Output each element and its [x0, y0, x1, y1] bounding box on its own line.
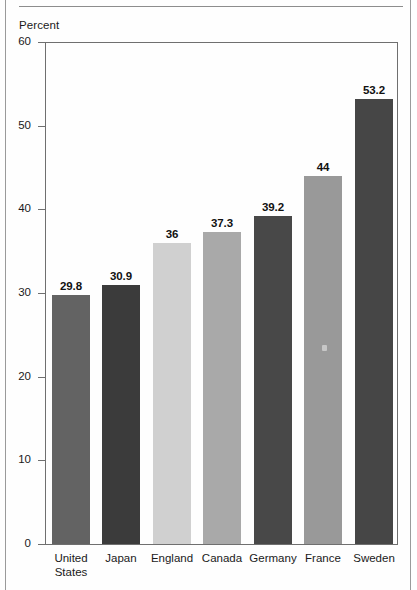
- y-axis-labels: 0102030405060: [0, 42, 31, 545]
- x-axis-category-label: United States: [44, 551, 98, 579]
- y-axis-tick-label: 40: [18, 203, 31, 215]
- bar-item[interactable]: 37.3: [203, 232, 241, 544]
- bar[interactable]: [52, 295, 90, 544]
- page-rule-top: [19, 6, 403, 7]
- bar-item[interactable]: 39.2: [254, 216, 292, 544]
- bar-value-label: 36: [166, 228, 179, 240]
- y-axis-tick-label: 20: [18, 371, 31, 383]
- y-axis-tick-label: 30: [18, 287, 31, 299]
- bar-value-label: 39.2: [262, 201, 284, 213]
- scan-artifact: [322, 345, 327, 351]
- bar[interactable]: [254, 216, 292, 544]
- bar[interactable]: [203, 232, 241, 544]
- bar-series: 29.830.93637.339.24453.2: [45, 42, 398, 545]
- y-axis-tick: [38, 377, 45, 378]
- bar-value-label: 30.9: [110, 270, 132, 282]
- y-axis-tick: [38, 42, 45, 43]
- y-axis-tick-label: 60: [18, 36, 31, 48]
- plot-area: 29.830.93637.339.24453.2: [45, 42, 398, 545]
- page-border-right: [410, 0, 411, 590]
- y-axis-tick: [38, 460, 45, 461]
- bar-value-label: 37.3: [211, 217, 233, 229]
- x-axis-category-label: England: [145, 551, 199, 565]
- bar-value-label: 53.2: [363, 84, 385, 96]
- x-axis-labels: United StatesJapanEnglandCanadaGermanyFr…: [45, 551, 398, 589]
- bar-value-label: 44: [317, 161, 330, 173]
- bar[interactable]: [153, 243, 191, 544]
- y-axis-tick: [38, 209, 45, 210]
- y-axis-tick-label: 10: [18, 454, 31, 466]
- y-axis-tick: [38, 293, 45, 294]
- y-axis-tick-label: 0: [25, 538, 31, 550]
- y-axis-tick: [38, 544, 45, 545]
- y-axis-tick: [38, 126, 45, 127]
- x-axis-category-label: Canada: [195, 551, 249, 565]
- y-axis-title: Percent: [19, 19, 59, 31]
- bar-item[interactable]: 53.2: [355, 99, 393, 544]
- y-axis-tick-label: 50: [18, 120, 31, 132]
- chart-page: Percent 0102030405060 29.830.93637.339.2…: [0, 0, 417, 590]
- bar[interactable]: [102, 285, 140, 544]
- x-axis-category-label: Sweden: [347, 551, 401, 565]
- bar-item[interactable]: 44: [304, 176, 342, 544]
- x-axis-category-label: France: [296, 551, 350, 565]
- x-axis-category-label: Germany: [246, 551, 300, 565]
- bar-item[interactable]: 30.9: [102, 285, 140, 544]
- bar[interactable]: [355, 99, 393, 544]
- bar-item[interactable]: 29.8: [52, 295, 90, 544]
- bar[interactable]: [304, 176, 342, 544]
- x-axis-category-label: Japan: [94, 551, 148, 565]
- bar-item[interactable]: 36: [153, 243, 191, 544]
- bar-value-label: 29.8: [60, 280, 82, 292]
